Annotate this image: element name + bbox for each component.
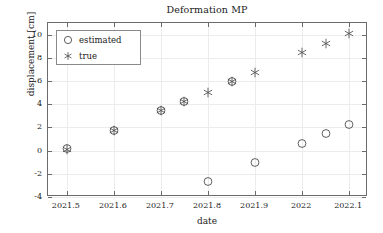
x-axis-tick [114, 23, 115, 27]
data-point-true[interactable] [178, 92, 190, 111]
data-point-true[interactable] [343, 25, 355, 44]
data-point-estimated[interactable] [202, 172, 214, 191]
legend[interactable]: estimated true [56, 30, 141, 65]
y-tick-label: -4 [20, 192, 42, 201]
legend-label-estimated: estimated [79, 35, 122, 45]
data-point-estimated[interactable] [249, 154, 261, 173]
x-axis-tick [255, 191, 256, 195]
gridline-horizontal [48, 151, 366, 152]
data-point-true[interactable] [296, 44, 308, 63]
y-tick-label: -2 [20, 168, 42, 177]
y-axis-tick [48, 127, 52, 128]
x-axis-tick [349, 191, 350, 195]
data-point-true[interactable] [226, 73, 238, 92]
x-tick-label: 2021.8 [193, 201, 221, 210]
gridline-horizontal [48, 104, 366, 105]
y-axis-tick [362, 58, 366, 59]
data-point-true[interactable] [155, 102, 167, 121]
x-axis-tick [208, 191, 209, 195]
y-axis-tick [48, 104, 52, 105]
y-axis-label: displacement [cm] [26, 0, 36, 134]
y-axis-tick [362, 151, 366, 152]
data-point-estimated[interactable] [320, 125, 332, 144]
x-axis-tick [161, 23, 162, 27]
data-point-true[interactable] [108, 121, 120, 140]
gridline-vertical [349, 23, 350, 195]
y-axis-tick [362, 174, 366, 175]
y-axis-tick [362, 104, 366, 105]
x-tick-label: 2021.9 [240, 201, 268, 210]
gridline-horizontal [48, 197, 366, 198]
data-point-true[interactable] [61, 141, 73, 160]
y-axis-tick [48, 81, 52, 82]
y-axis-tick [48, 174, 52, 175]
legend-label-true: true [79, 51, 97, 61]
figure-canvas: Deformation MP 2021.52021.62021.72021.82… [0, 0, 383, 233]
data-point-estimated[interactable] [343, 115, 355, 134]
legend-item-true[interactable]: true [57, 48, 140, 64]
x-tick-label: 2021.5 [52, 201, 80, 210]
gridline-horizontal [48, 127, 366, 128]
y-axis-tick [48, 151, 52, 152]
circle-marker-icon [57, 32, 79, 48]
data-point-true[interactable] [249, 63, 261, 82]
y-axis-tick [362, 127, 366, 128]
y-axis-tick [362, 81, 366, 82]
x-axis-tick [161, 191, 162, 195]
x-axis-tick [302, 23, 303, 27]
data-point-estimated[interactable] [296, 135, 308, 154]
y-axis-tick [362, 197, 366, 198]
data-point-true[interactable] [320, 34, 332, 53]
x-tick-label: 2022.1 [334, 201, 362, 210]
x-axis-tick [67, 23, 68, 27]
y-tick-label: 0 [20, 145, 42, 154]
y-axis-tick [48, 197, 52, 198]
x-axis-tick [67, 191, 68, 195]
data-point-true[interactable] [202, 83, 214, 102]
legend-item-estimated[interactable]: estimated [57, 32, 140, 48]
x-axis-tick [114, 191, 115, 195]
chart-title: Deformation MP [47, 4, 367, 15]
x-axis-tick [302, 191, 303, 195]
x-tick-label: 2021.6 [99, 201, 127, 210]
gridline-vertical [208, 23, 209, 195]
x-tick-label: 2021.7 [146, 201, 174, 210]
x-axis-label: date [47, 216, 367, 226]
gridline-horizontal [48, 81, 366, 82]
y-axis-tick [362, 35, 366, 36]
x-axis-tick [255, 23, 256, 27]
y-axis-tick [48, 35, 52, 36]
asterisk-marker-icon [57, 48, 79, 64]
x-axis-tick [208, 23, 209, 27]
x-tick-label: 2022 [291, 201, 311, 210]
y-axis-tick [48, 58, 52, 59]
